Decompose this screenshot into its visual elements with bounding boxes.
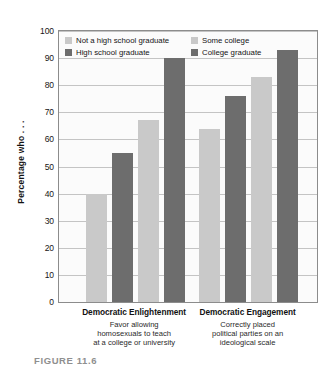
x-axis-group: Democratic EnlightenmentFavor allowingho…: [69, 307, 199, 348]
chart-legend: Not a high school graduateSome collegeHi…: [65, 35, 313, 58]
y-axis-tick: 0: [26, 297, 54, 307]
figure-container: Percentage who . . . 0102030405060708090…: [0, 0, 333, 377]
bar: [112, 153, 133, 302]
x-axis-group-title: Democratic Engagement: [183, 307, 313, 317]
legend-swatch-icon: [65, 49, 72, 56]
bars-layer: [59, 31, 317, 302]
y-axis-tick: 70: [26, 107, 54, 117]
legend-label: High school graduate: [76, 48, 150, 57]
bar: [277, 50, 298, 302]
y-axis-title: Percentage who . . .: [16, 92, 26, 232]
legend-item: College graduate: [191, 47, 309, 58]
bar-group: [86, 31, 185, 302]
y-axis-tick-labels: 0102030405060708090100: [26, 30, 54, 303]
legend-label: Some college: [202, 36, 249, 45]
bar: [251, 77, 272, 302]
bar: [164, 58, 185, 302]
description-line: homosexuals to teach: [69, 329, 199, 338]
y-axis-tick: 50: [26, 162, 54, 172]
description-line: ideological scale: [183, 338, 313, 347]
y-axis-tick: 90: [26, 53, 54, 63]
legend-swatch-icon: [191, 49, 198, 56]
bar: [138, 120, 159, 302]
description-line: Favor allowing: [69, 320, 199, 329]
y-axis-tick: 80: [26, 80, 54, 90]
legend-item: Not a high school graduate: [65, 35, 191, 46]
legend-swatch-icon: [191, 37, 198, 44]
legend-item: High school graduate: [65, 47, 191, 58]
description-line: Correctly placed: [183, 320, 313, 329]
description-line: at a college or university: [69, 338, 199, 347]
bar: [225, 96, 246, 302]
y-axis-tick: 100: [26, 26, 54, 36]
y-axis-tick: 30: [26, 216, 54, 226]
y-axis-tick: 60: [26, 134, 54, 144]
legend-label: Not a high school graduate: [76, 36, 169, 45]
legend-label: College graduate: [202, 48, 261, 57]
x-axis-group-description: Correctly placedpolitical parties on ani…: [183, 320, 313, 348]
figure-caption: FIGURE 11.6: [34, 355, 97, 366]
bar: [86, 194, 107, 302]
y-axis-tick: 40: [26, 189, 54, 199]
legend-swatch-icon: [65, 37, 72, 44]
plot-area: Not a high school graduateSome collegeHi…: [58, 30, 318, 303]
legend-item: Some college: [191, 35, 309, 46]
y-axis-tick: 20: [26, 243, 54, 253]
x-axis-group: Democratic EngagementCorrectly placedpol…: [183, 307, 313, 348]
x-axis-group-description: Favor allowinghomosexuals to teachat a c…: [69, 320, 199, 348]
bar: [199, 129, 220, 302]
x-axis-group-title: Democratic Enlightenment: [69, 307, 199, 317]
description-line: political parties on an: [183, 329, 313, 338]
y-axis-tick: 10: [26, 270, 54, 280]
bar-group: [199, 31, 298, 302]
